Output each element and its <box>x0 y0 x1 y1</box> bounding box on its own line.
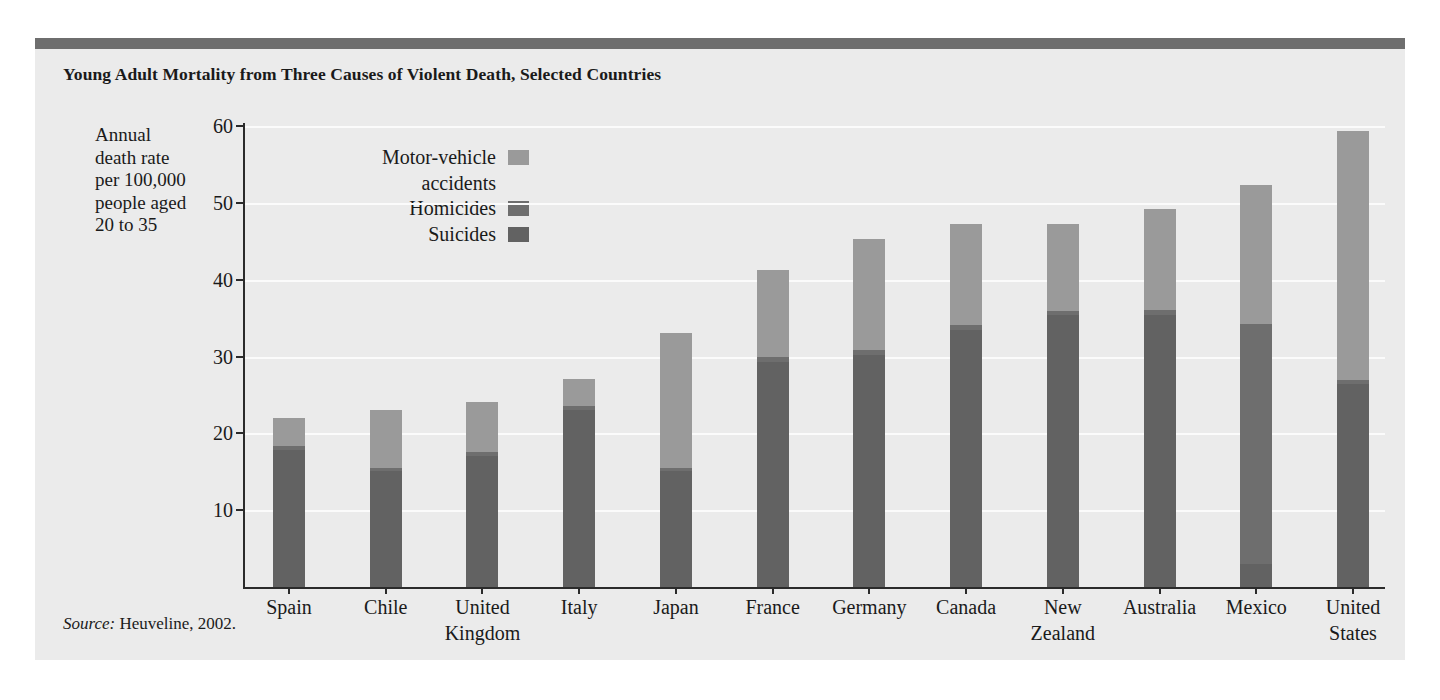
y-axis-tick-mark <box>236 432 243 434</box>
bar-segment[interactable] <box>1047 224 1079 311</box>
bar-stack[interactable] <box>950 224 982 587</box>
bar-segment[interactable] <box>660 471 692 587</box>
bar-segment[interactable] <box>950 330 982 587</box>
bar-segment[interactable] <box>757 362 789 587</box>
bar-segment[interactable] <box>1240 324 1272 564</box>
bar-segment[interactable] <box>1337 131 1369 380</box>
bar-segment[interactable] <box>1144 209 1176 310</box>
x-axis-label-line: Kingdom <box>412 620 552 646</box>
x-axis-tick-mark <box>1062 587 1064 594</box>
bar-segment[interactable] <box>370 410 402 468</box>
bar-segment[interactable] <box>1047 315 1079 587</box>
bar-segment[interactable] <box>660 333 692 468</box>
x-axis-labels: SpainChileUnitedKingdomItalyJapanFranceG… <box>243 594 1385 656</box>
bar-segment[interactable] <box>1144 315 1176 587</box>
bar-stack[interactable] <box>660 333 692 587</box>
y-axis-caption: Annualdeath rateper 100,000people aged20… <box>95 124 235 237</box>
bar-segment[interactable] <box>1337 384 1369 587</box>
bar-segment[interactable] <box>273 418 305 446</box>
bar-segment[interactable] <box>757 270 789 357</box>
bar-segment[interactable] <box>853 355 885 587</box>
bar-series-group <box>243 123 1385 589</box>
chart-figure-panel: Young Adult Mortality from Three Causes … <box>35 38 1405 660</box>
bar-segment[interactable] <box>1240 564 1272 587</box>
x-axis-tick-mark <box>1352 587 1354 594</box>
plot-area: 102030405060 <box>243 123 1385 589</box>
y-axis-tick-label: 30 <box>173 347 233 367</box>
x-axis-tick-mark <box>1159 587 1161 594</box>
y-axis-tick-mark <box>236 509 243 511</box>
bar-stack[interactable] <box>1337 131 1369 587</box>
bar-stack[interactable] <box>370 410 402 587</box>
chart-title: Young Adult Mortality from Three Causes … <box>63 64 661 85</box>
bar-segment[interactable] <box>1240 185 1272 324</box>
x-axis-tick-mark <box>385 587 387 594</box>
bar-segment[interactable] <box>370 471 402 587</box>
bar-segment[interactable] <box>273 450 305 587</box>
x-axis-tick-mark <box>288 587 290 594</box>
y-axis-tick-label: 50 <box>173 193 233 213</box>
bar-stack[interactable] <box>1047 224 1079 587</box>
bar-segment[interactable] <box>563 410 595 587</box>
bar-segment[interactable] <box>950 224 982 325</box>
bar-stack[interactable] <box>757 270 789 587</box>
x-axis-tick-mark <box>965 587 967 594</box>
y-axis-tick-label: 40 <box>173 270 233 290</box>
bar-stack[interactable] <box>466 402 498 587</box>
bar-stack[interactable] <box>1240 185 1272 587</box>
x-axis-label-line: Zealand <box>993 620 1133 646</box>
x-axis-tick-mark <box>772 587 774 594</box>
x-axis-label-line: United <box>1283 594 1423 620</box>
y-axis-tick-mark <box>236 356 243 358</box>
x-axis-tick-mark <box>1255 587 1257 594</box>
y-axis-tick-label: 10 <box>173 500 233 520</box>
source-label: Source: <box>63 614 115 633</box>
x-axis-tick-mark <box>868 587 870 594</box>
bar-segment[interactable] <box>466 456 498 587</box>
bar-segment[interactable] <box>466 402 498 452</box>
x-axis-tick-mark <box>675 587 677 594</box>
bar-stack[interactable] <box>563 379 595 587</box>
y-axis-caption-line: 20 to 35 <box>95 214 235 237</box>
y-axis-tick-mark <box>236 202 243 204</box>
y-axis-tick-mark <box>236 279 243 281</box>
x-axis-label-line: States <box>1283 620 1423 646</box>
top-accent-band <box>35 38 1405 49</box>
bar-stack[interactable] <box>273 418 305 587</box>
bar-stack[interactable] <box>853 239 885 587</box>
x-axis-label: UnitedStates <box>1283 594 1423 646</box>
y-axis-tick-label: 60 <box>173 116 233 136</box>
y-axis-tick-label: 20 <box>173 423 233 443</box>
x-axis-tick-mark <box>578 587 580 594</box>
bar-segment[interactable] <box>853 239 885 350</box>
bar-stack[interactable] <box>1144 209 1176 587</box>
bar-segment[interactable] <box>563 379 595 406</box>
y-axis-tick-mark <box>236 125 243 127</box>
source-note: Source: Heuveline, 2002. <box>63 614 236 634</box>
y-axis-caption-line: death rate <box>95 147 235 170</box>
x-axis-tick-mark <box>481 587 483 594</box>
y-axis-caption-line: per 100,000 <box>95 169 235 192</box>
source-value: Heuveline, 2002. <box>115 614 236 633</box>
